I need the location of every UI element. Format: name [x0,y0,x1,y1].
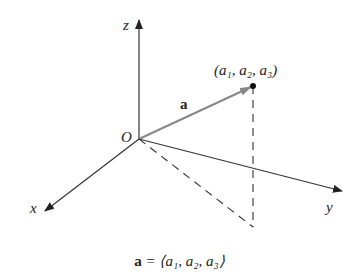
point-dot [250,83,256,89]
origin-label: O [121,129,132,146]
z-axis-label: z [123,17,129,34]
caption-vector: a [134,253,142,269]
y-axis-label: y [326,199,333,216]
caption-components: = ⟨a₁, a₂, a₃⟩ [142,253,225,269]
vector-label: a [180,96,188,113]
vector-a [139,87,251,139]
x-axis [45,139,139,211]
vector-diagram [0,0,359,279]
projection-dash-diagonal [139,139,253,227]
caption: a = ⟨a₁, a₂, a₃⟩ [0,252,359,270]
x-axis-label: x [30,200,37,217]
y-axis [139,139,342,191]
point-label: (a₁, a₂, a₃) [214,62,277,79]
